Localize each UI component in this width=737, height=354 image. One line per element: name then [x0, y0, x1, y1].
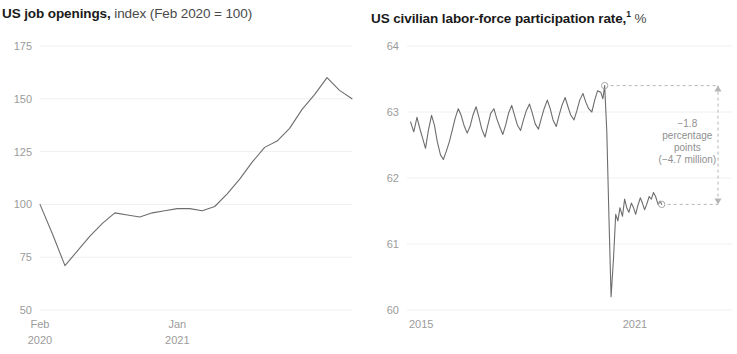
x-axis-tick-label: Jan — [168, 318, 186, 330]
callout-text-line: percentage — [662, 130, 712, 141]
callout-text-line: (−4.7 million) — [659, 154, 717, 165]
chart-svg-job-openings: 5075100125150175Feb2020Jan2021 — [0, 0, 367, 354]
y-axis-tick-label: 62 — [387, 172, 399, 184]
y-axis-tick-label: 50 — [20, 304, 32, 316]
x-axis-tick-label: 2015 — [409, 318, 433, 330]
callout-text-line: −1.8 — [677, 118, 697, 129]
x-axis-tick-label: 2021 — [623, 318, 647, 330]
callout-text-line: points — [674, 142, 701, 153]
y-axis-tick-label: 175 — [14, 40, 32, 52]
y-axis-tick-label: 63 — [387, 106, 399, 118]
two-panel-chart-figure: US job openings, index (Feb 2020 = 100) … — [0, 0, 737, 354]
panel-participation-rate: US civilian labor-force participation ra… — [367, 0, 737, 354]
series-line-participation-rate — [411, 86, 662, 297]
y-axis-tick-label: 150 — [14, 93, 32, 105]
panel-job-openings: US job openings, index (Feb 2020 = 100) … — [0, 0, 367, 354]
callout-arrow-up — [715, 86, 722, 92]
x-axis-tick-label: 2020 — [28, 334, 52, 346]
y-axis-tick-label: 75 — [20, 251, 32, 263]
plot-job-openings: 5075100125150175Feb2020Jan2021 — [0, 0, 367, 354]
y-axis-tick-label: 125 — [14, 146, 32, 158]
plot-participation-rate: 606162636420152021−1.8percentagepoints(−… — [367, 0, 737, 354]
chart-svg-participation-rate: 606162636420152021−1.8percentagepoints(−… — [367, 0, 737, 354]
x-axis-tick-label: 2021 — [165, 334, 189, 346]
x-axis-tick-label: Feb — [31, 318, 50, 330]
series-line-job-openings — [40, 78, 352, 266]
y-axis-tick-label: 100 — [14, 198, 32, 210]
callout-arrow-down — [715, 198, 722, 204]
y-axis-tick-label: 61 — [387, 238, 399, 250]
y-axis-tick-label: 60 — [387, 304, 399, 316]
y-axis-tick-label: 64 — [387, 40, 399, 52]
